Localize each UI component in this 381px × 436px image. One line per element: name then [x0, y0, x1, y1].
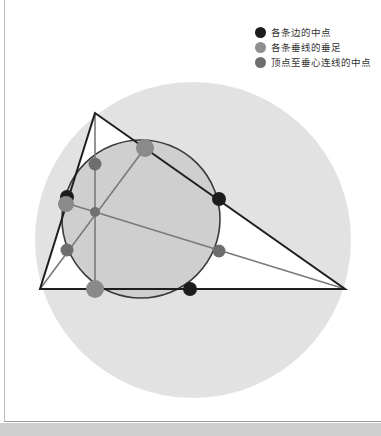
legend: 各条边的中点 各条垂线的垂足 顶点至垂心连线的中点 [255, 25, 365, 70]
foot-from-b [136, 139, 154, 157]
legend-item-vertex-orthocenter-midpoints: 顶点至垂心连线的中点 [255, 55, 365, 69]
midpoint-c-h [213, 245, 226, 258]
midpoint-a-h [89, 158, 102, 171]
legend-label: 顶点至垂心连线的中点 [271, 55, 371, 69]
legend-item-side-midpoints: 各条边的中点 [255, 25, 365, 39]
midpoint-ac [212, 192, 226, 206]
legend-marker-black-icon [255, 27, 266, 38]
orthocenter [90, 207, 100, 217]
midpoint-bc [183, 282, 197, 296]
legend-label: 各条垂线的垂足 [271, 40, 341, 54]
midpoint-b-h [61, 244, 74, 257]
legend-marker-light-gray-icon [255, 42, 266, 53]
foot-from-a [86, 280, 104, 298]
nine-point-circle [62, 140, 220, 298]
legend-marker-gray-icon [255, 57, 266, 68]
foot-from-c [58, 196, 74, 212]
legend-label: 各条边的中点 [271, 25, 331, 39]
legend-item-altitude-feet: 各条垂线的垂足 [255, 40, 365, 54]
